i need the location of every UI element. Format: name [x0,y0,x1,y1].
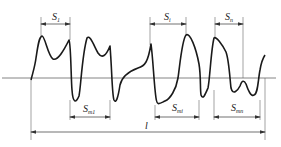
label-s1: S1 [52,11,60,23]
label-smn: Smn [231,102,243,114]
profile-curve [31,35,265,104]
label-si: Si [164,11,171,23]
label-smi: Smi [172,102,183,114]
label-sn: Sn [225,11,233,23]
roughness-profile-diagram: S1 Si Sn Sm1 Smi Smn l [0,0,281,147]
label-sm1: Sm1 [83,103,95,115]
label-l: l [145,120,148,131]
